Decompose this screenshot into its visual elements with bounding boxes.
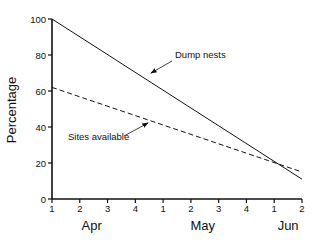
x-tick-label: 2 <box>188 203 193 214</box>
month-label: May <box>190 218 215 233</box>
arrow-icon <box>151 61 172 73</box>
x-tick-label: 1 <box>272 203 277 214</box>
series-line-dump-nests <box>52 19 302 179</box>
y-tick-label: 0 <box>41 194 46 205</box>
month-label: Apr <box>82 218 103 233</box>
x-tick-label: 1 <box>49 203 54 214</box>
x-tick-label: 3 <box>216 203 221 214</box>
annotation-dump-nests: Dump nests <box>175 49 226 60</box>
x-tick-label: 2 <box>77 203 82 214</box>
y-tick-label: 80 <box>35 50 46 61</box>
y-axis-title: Percentage <box>4 77 19 144</box>
y-axis: 020406080100 <box>30 14 52 205</box>
x-tick-label: 4 <box>133 203 138 214</box>
y-tick-label: 60 <box>35 86 46 97</box>
annotations: Dump nestsSites available <box>68 49 226 142</box>
arrow-icon <box>124 123 148 136</box>
month-label: Jun <box>278 218 299 233</box>
annotation-sites-available: Sites available <box>68 131 129 142</box>
y-tick-label: 20 <box>35 158 46 169</box>
line-chart: 020406080100 1234123412AprMayJun Dump ne… <box>0 0 318 248</box>
x-tick-label: 3 <box>105 203 110 214</box>
y-tick-label: 40 <box>35 122 46 133</box>
series-lines <box>52 19 302 179</box>
y-tick-label: 100 <box>30 14 46 25</box>
x-tick-label: 1 <box>160 203 165 214</box>
series-line-sites-available <box>52 87 302 172</box>
x-axis: 1234123412AprMayJun <box>49 199 304 233</box>
x-tick-label: 2 <box>299 203 304 214</box>
x-tick-label: 4 <box>244 203 249 214</box>
